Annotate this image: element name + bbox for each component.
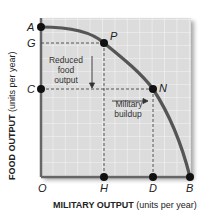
label-P: P <box>110 30 118 42</box>
svg-text:output: output <box>54 75 78 85</box>
annotation-military-buildup: Military buildup <box>114 99 143 119</box>
x-axis-title: MILITARY OUTPUT (units per year) <box>53 200 197 210</box>
label-A: A <box>26 21 34 33</box>
point-C <box>37 85 45 93</box>
svg-text:food: food <box>58 65 75 75</box>
label-B: B <box>186 182 193 194</box>
label-D: D <box>149 182 157 194</box>
svg-text:Reduced: Reduced <box>49 55 83 65</box>
label-O: O <box>38 182 47 194</box>
label-C: C <box>27 83 35 95</box>
label-G: G <box>27 37 36 49</box>
point-H <box>100 173 108 181</box>
label-N: N <box>159 82 167 94</box>
y-axis-title: FOOD OUTPUT (units per year) <box>7 51 17 180</box>
svg-text:Military: Military <box>116 99 144 109</box>
svg-text:buildup: buildup <box>114 109 142 119</box>
point-D <box>149 173 157 181</box>
label-H: H <box>100 182 108 194</box>
point-P <box>100 39 108 47</box>
point-A <box>37 23 45 31</box>
point-N <box>149 85 157 93</box>
ppc-chart: A G C P N O H D B Reduced food output Mi… <box>0 0 208 217</box>
point-B <box>186 173 194 181</box>
